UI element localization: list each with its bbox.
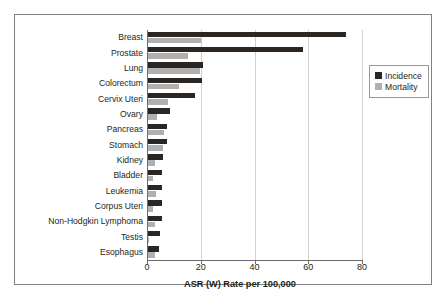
bar-group — [148, 122, 363, 137]
bar-mortality — [148, 53, 188, 58]
category-label: Bladder — [18, 170, 143, 180]
bar-incidence — [148, 170, 162, 175]
bar-mortality — [148, 237, 149, 242]
bar-incidence — [148, 200, 162, 205]
category-label: Leukemia — [18, 186, 143, 196]
bar-mortality — [148, 191, 156, 196]
bar-incidence — [148, 139, 167, 144]
category-axis-labels: BreastProstateLungColorectumCervix Uteri… — [15, 30, 143, 260]
bar-group — [148, 214, 363, 229]
legend-swatch-icon — [375, 83, 382, 90]
chart-figure: BreastProstateLungColorectumCervix Uteri… — [0, 0, 445, 298]
legend-label: Incidence — [385, 71, 422, 81]
bar-incidence — [148, 32, 346, 37]
bar-mortality — [148, 99, 168, 104]
legend-swatch-icon — [375, 72, 382, 79]
bar-group — [148, 153, 363, 168]
category-label: Breast — [18, 32, 143, 42]
bar-incidence — [148, 78, 202, 83]
x-axis-tick-label: 0 — [132, 262, 162, 272]
x-axis-tick-label: 80 — [347, 262, 377, 272]
legend-entry: Incidence — [375, 70, 422, 81]
bar-incidence — [148, 124, 167, 129]
category-label: Corpus Uteri — [18, 201, 143, 211]
category-label: Non-Hodgkin Lymphoma — [18, 216, 143, 226]
bar-incidence — [148, 62, 203, 67]
bar-mortality — [148, 38, 201, 43]
bar-group — [148, 137, 363, 152]
category-label: Lung — [18, 63, 143, 73]
bar-group — [148, 30, 363, 45]
bar-mortality — [148, 145, 163, 150]
x-axis-tick-label: 20 — [186, 262, 216, 272]
legend-entry: Mortality — [375, 81, 422, 92]
bar-mortality — [148, 206, 153, 211]
bar-mortality — [148, 68, 200, 73]
category-label: Colorectum — [18, 78, 143, 88]
bar-group — [148, 76, 363, 91]
x-axis-tick-label: 60 — [293, 262, 323, 272]
bar-incidence — [148, 93, 195, 98]
category-label: Prostate — [18, 48, 143, 58]
bar-group — [148, 91, 363, 106]
plot-area — [147, 30, 362, 260]
bar-group — [148, 183, 363, 198]
bar-mortality — [148, 84, 179, 89]
bar-mortality — [148, 160, 155, 165]
x-axis-title: ASR (W) Rate per 100,000 — [75, 279, 405, 289]
bar-group — [148, 168, 363, 183]
category-label: Esophagus — [18, 247, 143, 257]
bar-incidence — [148, 231, 160, 236]
category-label: Testis — [18, 232, 143, 242]
bar-mortality — [148, 252, 155, 257]
bar-incidence — [148, 216, 162, 221]
bar-mortality — [148, 114, 157, 119]
bar-incidence — [148, 185, 162, 190]
bar-group — [148, 107, 363, 122]
bar-mortality — [148, 176, 153, 181]
bar-group — [148, 229, 363, 244]
bar-incidence — [148, 246, 159, 251]
category-label: Stomach — [18, 140, 143, 150]
bar-incidence — [148, 154, 163, 159]
bar-incidence — [148, 108, 170, 113]
category-label: Kidney — [18, 155, 143, 165]
bar-group — [148, 199, 363, 214]
bar-incidence — [148, 47, 303, 52]
chart-legend: IncidenceMortality — [369, 65, 429, 98]
chart-frame: BreastProstateLungColorectumCervix Uteri… — [14, 14, 432, 285]
legend-label: Mortality — [385, 82, 417, 92]
bar-group — [148, 45, 363, 60]
category-label: Cervix Uteri — [18, 94, 143, 104]
bar-group — [148, 245, 363, 260]
category-label: Ovary — [18, 109, 143, 119]
category-label: Pancreas — [18, 124, 143, 134]
bar-mortality — [148, 130, 164, 135]
bar-mortality — [148, 222, 155, 227]
bar-group — [148, 61, 363, 76]
x-axis-tick-label: 40 — [240, 262, 270, 272]
